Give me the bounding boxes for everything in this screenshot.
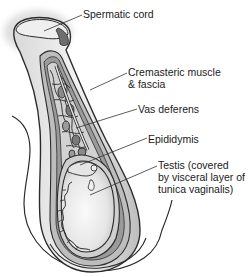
label-spermatic-cord: Spermatic cord <box>83 8 154 20</box>
label-testis: Testis (covered by visceral layer of tun… <box>158 159 245 195</box>
testis-illustration <box>0 0 251 277</box>
leader-cremasteric <box>90 73 127 90</box>
label-epididymis: Epididymis <box>148 133 199 145</box>
anatomy-diagram: Spermatic cord Cremasteric muscle & fasc… <box>0 0 251 277</box>
label-cremasteric-muscle: Cremasteric muscle & fascia <box>128 66 221 90</box>
label-vas-deferens: Vas deferens <box>138 103 199 115</box>
